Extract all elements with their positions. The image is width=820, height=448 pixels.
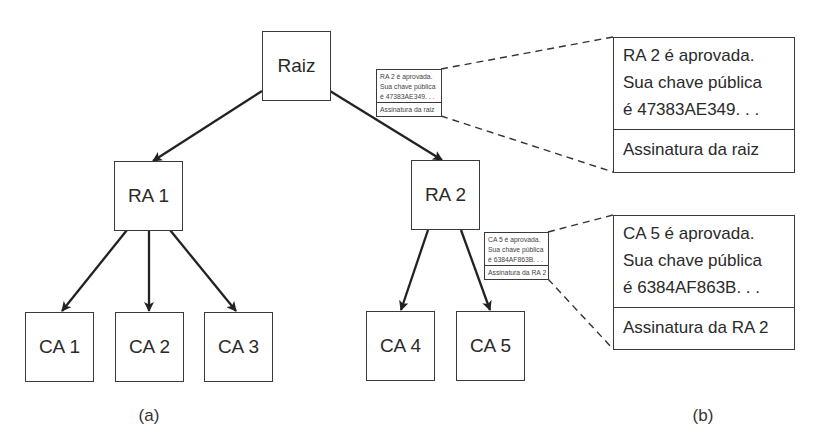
caption-a: (a): [139, 406, 160, 426]
node-label: CA 3: [218, 336, 259, 358]
certificate-line: RA 2 é aprovada.: [380, 72, 438, 82]
certificate-body: CA 5 é aprovada. Sua chave pública é 638…: [614, 216, 794, 308]
certificate-body: CA 5 é aprovada. Sua chave pública é 638…: [485, 233, 548, 266]
certificate-line: RA 2 é aprovada.: [623, 42, 785, 69]
certificate-line: é 6384AF863B. . .: [623, 274, 785, 301]
certificate-line: CA 5 é aprovada.: [623, 220, 785, 247]
certificate-ra2-small: RA 2 é aprovada. Sua chave pública é 473…: [376, 69, 442, 117]
node-label: RA 2: [425, 184, 466, 206]
node-ca4: CA 4: [366, 311, 435, 381]
certificate-line: é 47383AE349. . .: [623, 96, 785, 123]
node-label: Raiz: [277, 55, 315, 77]
certificate-ca5-detail: CA 5 é aprovada. Sua chave pública é 638…: [613, 215, 795, 350]
certificate-body: RA 2 é aprovada. Sua chave pública é 473…: [614, 38, 794, 130]
node-label: CA 1: [39, 336, 80, 358]
certificate-signature: Assinatura da RA 2: [614, 308, 794, 347]
certificate-line: CA 5 é aprovada.: [488, 235, 545, 245]
node-ca2: CA 2: [115, 312, 184, 382]
zoom-line-cert-b-top: [548, 215, 613, 232]
node-label: CA 4: [380, 335, 421, 357]
node-ra1: RA 1: [114, 161, 183, 231]
certificate-line: é 47383AE349. . .: [380, 92, 438, 102]
node-ca3: CA 3: [204, 312, 273, 382]
certificate-ra2-detail: RA 2 é aprovada. Sua chave pública é 473…: [613, 37, 795, 173]
certificate-signature: Assinatura da raiz: [377, 103, 441, 117]
certificate-line: Sua chave pública: [380, 82, 438, 92]
arrow-ra2-ca4: [401, 230, 428, 310]
arrow-raiz-ra1: [153, 91, 262, 161]
zoom-line-cert-a-top: [441, 37, 613, 69]
certificate-ca5-small: CA 5 é aprovada. Sua chave pública é 638…: [484, 232, 549, 280]
node-label: CA 2: [129, 336, 170, 358]
node-ca1: CA 1: [25, 312, 94, 382]
certificate-line: é 6384AF863B. . .: [488, 255, 545, 265]
node-raiz: Raiz: [262, 31, 331, 101]
certificate-line: Sua chave pública: [623, 247, 785, 274]
arrow-ra1-ca1: [62, 230, 127, 311]
node-label: RA 1: [128, 185, 169, 207]
node-ra2: RA 2: [411, 160, 480, 230]
certificate-signature: Assinatura da RA 2: [485, 266, 548, 280]
certificate-body: RA 2 é aprovada. Sua chave pública é 473…: [377, 70, 441, 103]
node-label: CA 5: [470, 335, 511, 357]
arrow-ra1-ca3: [170, 230, 236, 311]
node-ca5: CA 5: [456, 311, 525, 381]
zoom-line-cert-b-bottom: [548, 279, 613, 349]
certificate-signature: Assinatura da raiz: [614, 130, 794, 169]
caption-b: (b): [693, 406, 714, 426]
certificate-line: Sua chave pública: [488, 245, 545, 255]
certificate-line: Sua chave pública: [623, 69, 785, 96]
